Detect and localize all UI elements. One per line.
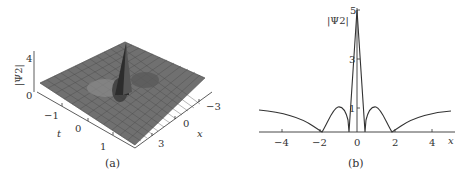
- x-tick-neg3: −3: [206, 101, 221, 112]
- caption-a: (a): [105, 157, 120, 170]
- t-axis-label: t: [57, 128, 62, 139]
- x-axis-label: x: [448, 135, 454, 146]
- caption-b: (b): [348, 157, 364, 170]
- x-tick-0: 0: [183, 118, 189, 129]
- x-tick-3: 3: [158, 138, 164, 149]
- y-axis-label: |Ψ2|: [327, 15, 349, 27]
- t-tick-1: 1: [100, 141, 106, 152]
- t-tick-0: 0: [75, 123, 81, 134]
- y-tick-3: 3: [349, 54, 355, 65]
- z-tick-0: 0: [26, 90, 32, 101]
- line-plot-canvas: −4 −2 0 2 4 x 1 3 5 |Ψ2|: [230, 0, 463, 180]
- t-tick-neg1: −1: [44, 110, 59, 121]
- z-tick-4: 4: [26, 53, 32, 64]
- x-tick-neg4: −4: [274, 137, 289, 148]
- surface-side-trough-right: [131, 72, 159, 88]
- x-axis-label-3d: x: [197, 128, 203, 139]
- z-axis-label: |Ψ2|: [13, 64, 25, 86]
- x-tick-2: 2: [392, 137, 398, 148]
- panel-b-line-plot: −4 −2 0 2 4 x 1 3 5 |Ψ2| (b): [230, 0, 463, 180]
- x-tick-neg2: −2: [312, 137, 327, 148]
- surface-plot-canvas: 4 0 |Ψ2| −1 0 1 t 3 0 −3 x: [0, 0, 230, 180]
- panel-a-surface-plot: 4 0 |Ψ2| −1 0 1 t 3 0 −3 x (a): [0, 0, 230, 180]
- x-tick-4: 4: [429, 137, 435, 148]
- y-tick-1: 1: [349, 103, 355, 114]
- y-tick-5: 5: [350, 5, 356, 16]
- x-tick-0: 0: [354, 137, 360, 148]
